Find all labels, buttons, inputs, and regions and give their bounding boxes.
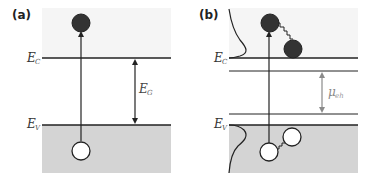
electron-icon — [72, 14, 90, 32]
ec-subscript: C — [222, 58, 228, 66]
mu-subscript: eh — [335, 92, 344, 100]
panel-b: (b) E C E V — [199, 8, 358, 173]
panel-b-label: (b) — [199, 8, 219, 22]
hole-icon — [260, 143, 278, 161]
conduction-band-region — [42, 8, 171, 58]
electron-icon — [284, 40, 302, 58]
panel-a-label: (a) — [12, 8, 31, 22]
eg-subscript: G — [147, 89, 153, 97]
electron-icon — [261, 14, 279, 32]
hole-icon — [72, 142, 90, 160]
hole-icon — [283, 128, 301, 146]
ec-subscript: C — [35, 58, 41, 66]
band-diagram-figure: (a) E C E V E G (b) — [0, 0, 373, 180]
panel-a: (a) E C E V E G — [12, 8, 171, 173]
valence-band-region — [42, 125, 171, 173]
ev-subscript: V — [35, 124, 41, 132]
ev-subscript: V — [222, 124, 228, 132]
